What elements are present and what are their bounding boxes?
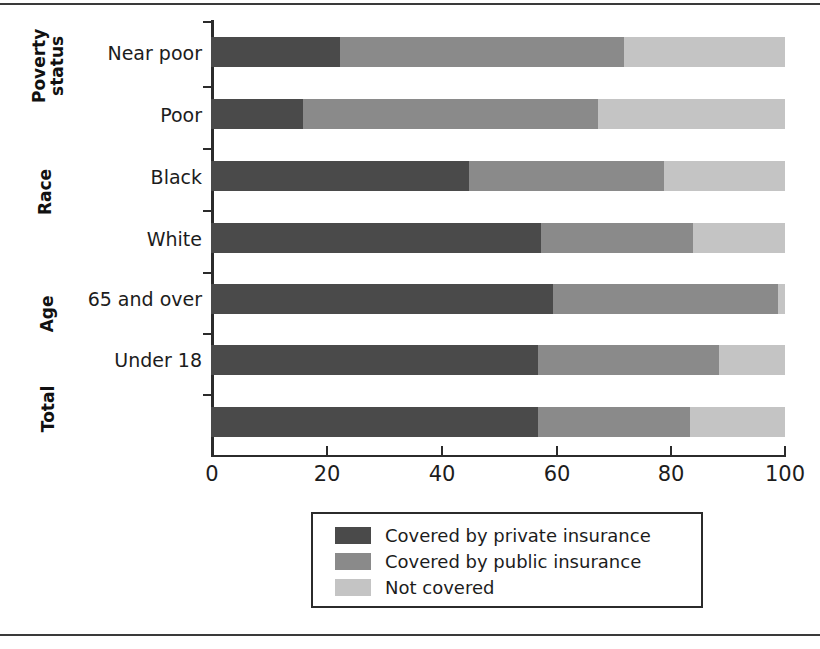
legend-swatch-public-icon: [335, 553, 371, 570]
x-tick-label-60: 60: [527, 462, 587, 486]
x-tick-label-80: 80: [641, 462, 701, 486]
stacked-bar: [211, 223, 785, 253]
x-axis-spine: [211, 455, 786, 457]
bar-segment-not-covered: [690, 407, 785, 437]
stacked-bar: [211, 37, 785, 67]
y-tick-label-near-poor: Near poor: [107, 42, 202, 64]
legend-label-not-covered: Not covered: [385, 577, 494, 598]
group-label-poverty-status: Poverty status: [31, 11, 67, 121]
x-tick-mark: [556, 446, 558, 457]
bar-segment-private: [211, 37, 340, 67]
legend-swatch-not-covered-icon: [335, 579, 371, 596]
legend-label-private: Covered by private insurance: [385, 525, 651, 546]
stacked-bar: [211, 407, 785, 437]
x-tick-label-100: 100: [755, 462, 815, 486]
y-tick-label-black: Black: [151, 166, 202, 188]
group-label-total: Total: [40, 359, 58, 459]
bar-segment-not-covered: [624, 37, 785, 67]
y-tick-label-poor: Poor: [160, 104, 202, 126]
bar-segment-private: [211, 99, 303, 129]
stacked-bar: [211, 161, 785, 191]
bar-segment-private: [211, 223, 541, 253]
chart-figure: Near poor Poor Black White 65 and over U…: [0, 0, 820, 649]
x-tick-mark: [326, 446, 328, 457]
bar-segment-public: [538, 345, 719, 375]
bar-segment-not-covered: [778, 284, 785, 314]
stacked-bar: [211, 284, 785, 314]
stacked-bar: [211, 345, 785, 375]
bar-segment-not-covered: [664, 161, 785, 191]
bar-segment-not-covered: [598, 99, 785, 129]
y-tick-label-white: White: [147, 228, 202, 250]
legend-item-public[interactable]: Covered by public insurance: [313, 548, 701, 574]
x-tick-label-40: 40: [412, 462, 472, 486]
x-tick-label-20: 20: [297, 462, 357, 486]
stacked-bar: [211, 99, 785, 129]
legend-swatch-private-icon: [335, 527, 371, 544]
bar-segment-private: [211, 284, 553, 314]
x-tick-mark: [441, 446, 443, 457]
bar-segment-public: [541, 223, 693, 253]
bar-segment-public: [340, 37, 624, 67]
bottom-rule: [0, 634, 820, 636]
bar-segment-not-covered: [719, 345, 785, 375]
bar-segment-public: [538, 407, 690, 437]
bar-segment-private: [211, 345, 538, 375]
bar-segment-private: [211, 161, 469, 191]
bar-segment-private: [211, 407, 538, 437]
legend-item-not-covered[interactable]: Not covered: [313, 574, 701, 600]
bar-segment-public: [303, 99, 599, 129]
x-tick-mark: [784, 446, 786, 457]
x-tick-mark: [670, 446, 672, 457]
chart-legend: Covered by private insurance Covered by …: [311, 512, 703, 608]
legend-label-public: Covered by public insurance: [385, 551, 641, 572]
y-tick-label-under-18: Under 18: [114, 349, 202, 371]
x-tick-label-0: 0: [182, 462, 242, 486]
bar-segment-public: [469, 161, 664, 191]
bar-segment-not-covered: [693, 223, 785, 253]
y-tick-label-65-and-over: 65 and over: [88, 288, 202, 310]
group-label-age: Age: [39, 274, 57, 354]
legend-item-private[interactable]: Covered by private insurance: [313, 522, 701, 548]
plot-area: [211, 20, 785, 455]
bar-segment-public: [553, 284, 779, 314]
x-tick-mark: [211, 446, 213, 457]
group-label-race: Race: [37, 152, 55, 232]
